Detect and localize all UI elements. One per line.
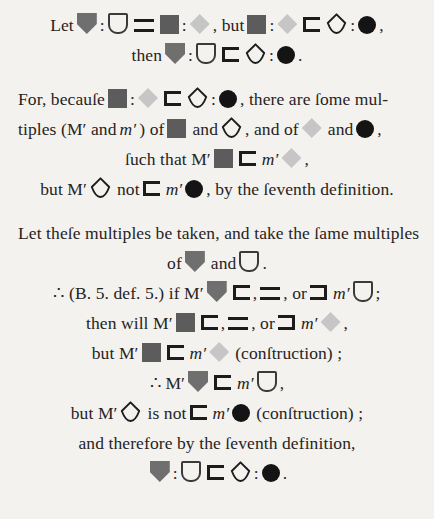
- circle-filled-black-icon: [185, 180, 203, 198]
- proof-text: ,: [280, 373, 284, 393]
- proof-text: and therefore by the ſeventh definition,: [78, 433, 355, 453]
- shield-outline-icon: [257, 371, 277, 392]
- proof-line: then::.: [14, 40, 420, 70]
- diamond-outline-icon: [230, 461, 251, 482]
- proof-text: not: [117, 179, 140, 199]
- less-than-bracket-icon: [239, 151, 256, 166]
- proof-line: Let theſe multiples be taken, and take t…: [14, 218, 420, 248]
- paragraph-gap: [14, 70, 420, 84]
- proof-text: ,: [377, 119, 381, 139]
- proof-text: .: [262, 253, 266, 273]
- proof-text: and: [328, 119, 354, 139]
- euclid-proof-page: Let::, but::,then::.For, becauſe::, ther…: [0, 0, 434, 519]
- circle-filled-black-icon: [277, 46, 295, 64]
- greater-than-bracket-icon: [278, 315, 295, 330]
- proof-text: :: [100, 15, 105, 35]
- equals-sign-icon: [134, 19, 154, 32]
- proof-text: Let theſe multiples be taken, and take t…: [18, 223, 419, 243]
- proof-text: :: [182, 15, 187, 35]
- greater-than-bracket-icon: [310, 285, 327, 300]
- proof-text: of: [167, 253, 182, 273]
- proof-text: .: [283, 463, 287, 483]
- shield-filled-grey-icon: [165, 43, 185, 64]
- less-than-bracket-icon: [303, 17, 320, 32]
- proof-content: Let::, but::,then::.For, becauſe::, ther…: [14, 10, 420, 488]
- proof-line: For, becauſe::, there are ſome mul-: [14, 84, 420, 114]
- proof-text: , by the ſeventh definition.: [206, 179, 393, 199]
- proof-text: , or: [251, 313, 275, 333]
- proof-text: ∴ M′: [150, 373, 185, 393]
- proof-text: ,: [379, 15, 383, 35]
- proof-text: , and of: [245, 119, 299, 139]
- diamond-filled-light-grey-icon: [277, 14, 297, 34]
- square-filled-dark-grey-icon: [167, 119, 186, 138]
- proof-line: but M′notm′, by the ſeventh definition.: [14, 174, 420, 204]
- less-than-bracket-icon: [214, 375, 231, 390]
- proof-block: For, becauſe::, there are ſome mul-tiple…: [14, 84, 420, 204]
- square-filled-dark-grey-icon: [108, 89, 127, 108]
- circle-filled-black-icon: [356, 120, 374, 138]
- paragraph-gap: [14, 204, 420, 218]
- proof-line: ∴ M′m′,: [14, 368, 420, 398]
- proof-text: :: [173, 463, 178, 483]
- less-than-bracket-icon: [207, 465, 224, 480]
- diamond-outline-icon: [90, 177, 111, 198]
- equals-sign-icon: [260, 287, 280, 300]
- multiplier-symbol: m′: [333, 283, 350, 303]
- multiplier-symbol: m′: [301, 313, 318, 333]
- less-than-bracket-icon: [201, 315, 218, 330]
- diamond-outline-icon: [120, 401, 141, 422]
- multiplier-symbol: m′: [120, 119, 137, 139]
- square-filled-dark-grey-icon: [214, 149, 233, 168]
- proof-text: ;: [376, 283, 381, 303]
- multiplier-symbol: m′: [237, 373, 254, 393]
- proof-line: Let::, but::,: [14, 10, 420, 40]
- square-filled-dark-grey-icon: [176, 313, 195, 332]
- proof-text: :: [269, 45, 274, 65]
- equals-sign-icon: [228, 317, 248, 330]
- less-than-bracket-icon: [164, 91, 181, 106]
- proof-text: but M′: [71, 403, 118, 423]
- shield-filled-grey-icon: [207, 281, 227, 302]
- multiplier-symbol: m′: [190, 343, 207, 363]
- proof-line: ſuch that M′m′,: [14, 144, 420, 174]
- proof-text: ſuch that M′: [125, 149, 211, 169]
- shield-outline-icon: [181, 461, 201, 482]
- proof-text: and: [192, 119, 218, 139]
- proof-text: , or: [283, 283, 307, 303]
- proof-text: ,: [304, 149, 308, 169]
- circle-filled-black-icon: [262, 464, 280, 482]
- proof-text: :: [350, 15, 355, 35]
- proof-text: ,: [344, 313, 348, 333]
- proof-text: but M′: [92, 343, 139, 363]
- diamond-outline-icon: [187, 87, 208, 108]
- proof-text: :: [269, 15, 274, 35]
- proof-text: ,: [221, 313, 225, 333]
- shield-outline-icon: [196, 43, 216, 64]
- proof-line: ∴ (B. 5. def. 5.) if M′,, orm′;: [14, 278, 420, 308]
- proof-line: ::.: [14, 458, 420, 488]
- diamond-filled-light-grey-icon: [190, 14, 210, 34]
- less-than-bracket-icon: [190, 405, 207, 420]
- diamond-filled-light-grey-icon: [138, 88, 158, 108]
- proof-text: , but: [213, 15, 245, 35]
- proof-block: Let::, but::,then::.: [14, 10, 420, 70]
- proof-text: but M′: [40, 179, 87, 199]
- proof-text: :: [130, 89, 135, 109]
- circle-filled-black-icon: [358, 16, 376, 34]
- proof-text: :: [211, 89, 216, 109]
- circle-filled-black-icon: [232, 404, 250, 422]
- square-filled-dark-grey-icon: [142, 343, 161, 362]
- proof-text: (conſtruction) ;: [256, 403, 363, 423]
- proof-text: :: [254, 463, 259, 483]
- diamond-outline-icon: [326, 13, 347, 34]
- proof-line: ofand.: [14, 248, 420, 278]
- proof-line: tiples (M′ andm′) ofand, and ofand,: [14, 114, 420, 144]
- diamond-outline-icon: [245, 43, 266, 64]
- less-than-bracket-icon: [222, 47, 239, 62]
- proof-line: and therefore by the ſeventh definition,: [14, 428, 420, 458]
- proof-line: then will M′,, orm′,: [14, 308, 420, 338]
- shield-outline-icon: [108, 13, 128, 34]
- proof-block: Let theſe multiples be taken, and take t…: [14, 218, 420, 488]
- diamond-filled-light-grey-icon: [321, 312, 341, 332]
